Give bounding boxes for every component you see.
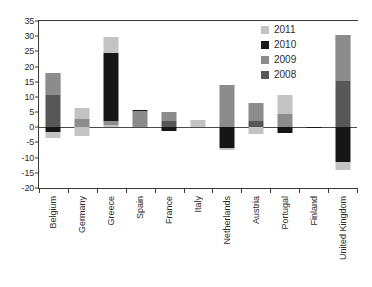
legend-swatch-icon bbox=[261, 26, 269, 34]
bar-group[interactable] bbox=[97, 21, 126, 188]
bar-segment[interactable] bbox=[46, 132, 61, 139]
legend-label: 2008 bbox=[274, 70, 296, 80]
bar-segment[interactable] bbox=[162, 127, 177, 130]
legend-label: 2009 bbox=[274, 55, 296, 65]
legend-item[interactable]: 2010 bbox=[261, 39, 296, 51]
y-axis-tick-label: 30 bbox=[24, 32, 34, 41]
x-axis-label: Spain bbox=[135, 196, 145, 219]
bar-segment[interactable] bbox=[75, 108, 90, 120]
bar-segment[interactable] bbox=[335, 81, 350, 128]
legend-swatch-icon bbox=[261, 41, 269, 49]
bar-segment[interactable] bbox=[277, 127, 292, 133]
legend-item[interactable]: 2008 bbox=[261, 69, 296, 81]
x-axis-tick-mark bbox=[184, 188, 185, 193]
legend-swatch-icon bbox=[261, 56, 269, 64]
chart-container: 35302520151050-5-10-15-20 20112010200920… bbox=[0, 0, 372, 287]
x-axis-tick-mark bbox=[155, 188, 156, 193]
legend-swatch-icon bbox=[261, 71, 269, 79]
bar-group[interactable] bbox=[39, 21, 68, 188]
x-axis-label: United Kingdom bbox=[338, 196, 348, 260]
bar-segment[interactable] bbox=[162, 121, 177, 128]
x-axis-label: Greece bbox=[106, 196, 116, 226]
bar-segment[interactable] bbox=[104, 125, 119, 128]
bar-group[interactable] bbox=[212, 21, 241, 188]
x-axis-tick-mark bbox=[299, 188, 300, 193]
x-axis-label: Finland bbox=[309, 196, 319, 226]
bar-segment[interactable] bbox=[104, 37, 119, 53]
x-axis-tick-mark bbox=[97, 188, 98, 193]
bar-group[interactable] bbox=[299, 21, 328, 188]
x-axis-label: Germany bbox=[77, 196, 87, 233]
y-axis-tick-label: -10 bbox=[22, 153, 34, 162]
bar-segment[interactable] bbox=[248, 103, 263, 121]
bar-segment[interactable] bbox=[335, 127, 350, 162]
x-axis-tick-mark bbox=[357, 188, 358, 193]
y-axis-tick-label: 0 bbox=[29, 123, 34, 132]
bar-segment[interactable] bbox=[219, 85, 234, 127]
y-axis-tick-label: 5 bbox=[29, 108, 34, 117]
y-axis-tick-label: 10 bbox=[24, 92, 34, 101]
bar-segment[interactable] bbox=[190, 120, 205, 127]
x-axis-tick-mark bbox=[39, 188, 40, 193]
x-axis-label: Belgium bbox=[48, 196, 58, 229]
bar-group[interactable] bbox=[328, 21, 357, 188]
bar-segment[interactable] bbox=[219, 127, 234, 148]
y-axis-tick-label: -5 bbox=[26, 138, 34, 147]
y-axis-tick-label: 25 bbox=[24, 47, 34, 56]
bar-segment[interactable] bbox=[335, 35, 350, 80]
bar-segment[interactable] bbox=[104, 53, 119, 121]
legend-item[interactable]: 2009 bbox=[261, 54, 296, 66]
bar-group[interactable] bbox=[155, 21, 184, 188]
y-axis-tick-label: 35 bbox=[24, 17, 34, 26]
plot-area: 35302520151050-5-10-15-20 bbox=[39, 21, 357, 188]
legend-item[interactable]: 2011 bbox=[261, 24, 296, 36]
x-axis-tick-mark bbox=[241, 188, 242, 193]
bar-group[interactable] bbox=[68, 21, 97, 188]
bar-segment[interactable] bbox=[277, 114, 292, 128]
x-axis-tick-mark bbox=[212, 188, 213, 193]
x-axis-label: Italy bbox=[193, 196, 203, 213]
x-axis-label: France bbox=[164, 196, 174, 224]
x-axis-label: Austria bbox=[251, 196, 261, 224]
bar-segment[interactable] bbox=[133, 111, 148, 127]
bar-segment[interactable] bbox=[306, 127, 321, 128]
chart-legend: 2011201020092008 bbox=[261, 24, 296, 81]
bar-segment[interactable] bbox=[75, 119, 90, 127]
bar-segment[interactable] bbox=[162, 112, 177, 121]
x-axis-label: Portugal bbox=[280, 196, 290, 230]
y-axis-tick-label: -20 bbox=[22, 184, 34, 193]
legend-label: 2010 bbox=[274, 40, 296, 50]
bar-segment[interactable] bbox=[335, 162, 350, 171]
bar-segment[interactable] bbox=[46, 95, 61, 127]
bar-segment[interactable] bbox=[277, 95, 292, 114]
bar-segment[interactable] bbox=[248, 121, 263, 128]
bar-segment[interactable] bbox=[75, 127, 90, 136]
bar-segment[interactable] bbox=[46, 73, 61, 95]
legend-label: 2011 bbox=[274, 25, 296, 35]
bar-group[interactable] bbox=[126, 21, 155, 188]
bar-segment[interactable] bbox=[248, 127, 263, 134]
bar-group[interactable] bbox=[184, 21, 213, 188]
x-axis-label: Netherlands bbox=[222, 196, 232, 245]
y-axis-tick-label: 15 bbox=[24, 77, 34, 86]
x-axis-tick-mark bbox=[126, 188, 127, 193]
x-axis-tick-mark bbox=[328, 188, 329, 193]
y-axis-tick-label: 20 bbox=[24, 62, 34, 71]
x-axis-tick-mark bbox=[270, 188, 271, 193]
x-axis-tick-mark bbox=[68, 188, 69, 193]
y-axis-tick-label: -15 bbox=[22, 168, 34, 177]
bar-segment[interactable] bbox=[219, 148, 234, 150]
